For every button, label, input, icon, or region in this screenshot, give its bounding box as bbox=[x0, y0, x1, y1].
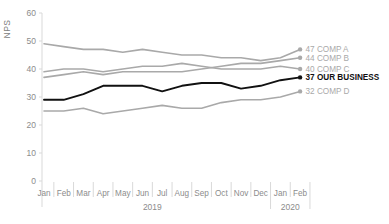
x-tick-label: Apr bbox=[97, 189, 110, 198]
y-tick-label: 50 bbox=[27, 36, 37, 46]
x-tick-label: Oct bbox=[215, 189, 228, 198]
series-label-comp-b: 44 COMP B bbox=[306, 54, 350, 63]
x-tick-label: Jun bbox=[136, 189, 150, 198]
chart-canvas: 0102030405060JanFebMarAprMayJunJulAugSep… bbox=[0, 0, 389, 224]
nps-trend-chart: NPS 0102030405060JanFebMarAprMayJunJulAu… bbox=[0, 0, 389, 224]
x-tick-label: Jan bbox=[274, 189, 288, 198]
x-tick-label: Jul bbox=[157, 189, 168, 198]
series-line-our-business bbox=[44, 77, 300, 99]
y-tick-label: 60 bbox=[27, 8, 37, 18]
x-tick-label: Dec bbox=[253, 189, 268, 198]
series-endpoint-comp-d bbox=[298, 89, 302, 93]
y-tick-label: 0 bbox=[31, 176, 36, 186]
series-endpoint-comp-c bbox=[298, 67, 302, 71]
y-tick-label: 10 bbox=[27, 148, 37, 158]
x-tick-label: Feb bbox=[293, 189, 308, 198]
series-endpoint-comp-b bbox=[298, 56, 302, 60]
x-tick-label: Aug bbox=[175, 189, 190, 198]
y-tick-label: 40 bbox=[27, 64, 37, 74]
series-label-comp-d: 32 COMP D bbox=[306, 87, 350, 96]
series-endpoint-our-business bbox=[298, 75, 302, 79]
series-label-our-business: 37 OUR BUSINESS bbox=[306, 73, 380, 82]
year-label: 2019 bbox=[143, 202, 162, 212]
series-line-comp-a bbox=[44, 44, 300, 61]
y-tick-label: 30 bbox=[27, 92, 37, 102]
y-tick-label: 20 bbox=[27, 120, 37, 130]
x-tick-label: Nov bbox=[234, 189, 249, 198]
x-tick-label: Feb bbox=[57, 189, 72, 198]
series-endpoint-comp-a bbox=[298, 47, 302, 51]
x-tick-label: Jan bbox=[37, 189, 51, 198]
x-tick-label: May bbox=[115, 189, 131, 198]
y-axis-title: NPS bbox=[2, 14, 16, 44]
series-line-comp-c bbox=[44, 63, 300, 71]
x-tick-label: Mar bbox=[76, 189, 90, 198]
x-tick-label: Sep bbox=[194, 189, 209, 198]
year-label: 2020 bbox=[281, 202, 300, 212]
